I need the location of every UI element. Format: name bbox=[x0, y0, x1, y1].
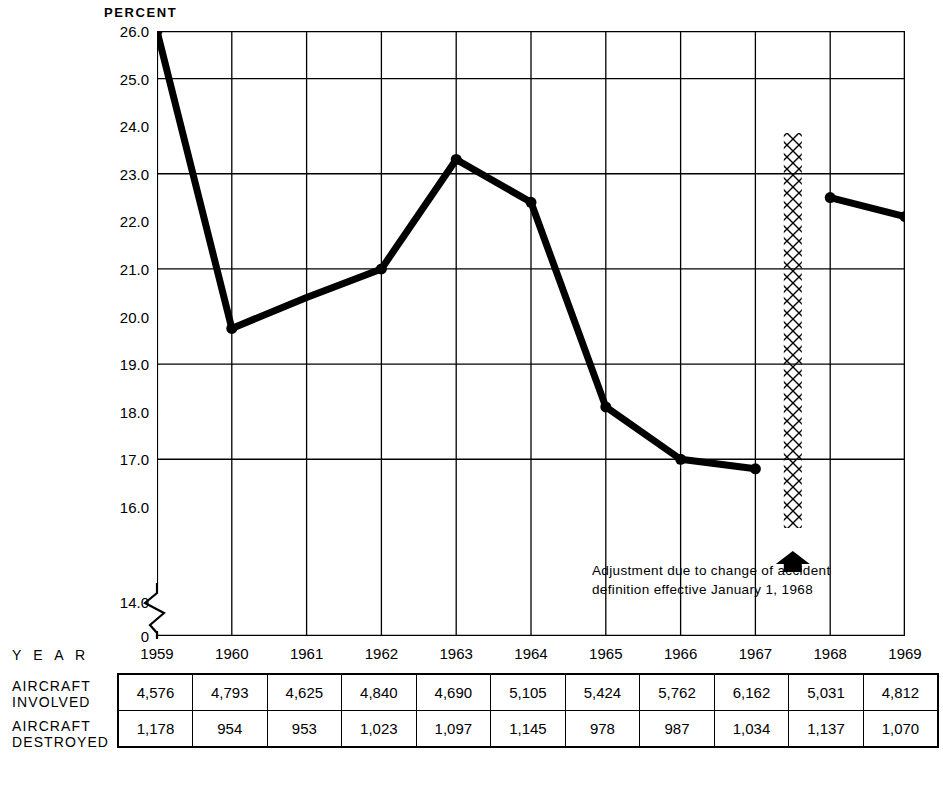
y-tick-label: 19.0 bbox=[87, 357, 149, 372]
x-tick-label: 1969 bbox=[870, 645, 940, 662]
annotation-line-2: definition effective January 1, 1968 bbox=[592, 580, 831, 599]
data-point-marker bbox=[451, 154, 462, 165]
x-tick-label: 1962 bbox=[346, 645, 416, 662]
x-tick-label: 1967 bbox=[720, 645, 790, 662]
table-cell: 1,023 bbox=[342, 711, 417, 748]
data-point-marker bbox=[526, 197, 537, 208]
table-cell: 4,625 bbox=[267, 674, 342, 711]
x-tick-label: 1963 bbox=[421, 645, 491, 662]
data-point-marker bbox=[376, 263, 387, 274]
adjustment-annotation: Adjustment due to change of accident def… bbox=[592, 561, 831, 599]
table-cell: 1,178 bbox=[118, 711, 193, 748]
row-label-aircraft-destroyed: AIRCRAFT DESTROYED bbox=[12, 718, 109, 750]
table-cell: 978 bbox=[565, 711, 640, 748]
y-axis-tick-labels: 26.025.024.023.022.021.020.019.018.017.0… bbox=[83, 31, 149, 636]
y-tick-label: 17.0 bbox=[87, 452, 149, 467]
y-tick-label: 26.0 bbox=[87, 24, 149, 39]
x-axis-tick-labels: 1959196019611962196319641965196619671968… bbox=[0, 645, 943, 669]
table-cell: 4,812 bbox=[863, 674, 938, 711]
y-tick-label: 20.0 bbox=[87, 310, 149, 325]
table-cell: 6,162 bbox=[714, 674, 789, 711]
data-point-marker bbox=[600, 401, 611, 412]
table-cell: 4,840 bbox=[342, 674, 417, 711]
plot-area bbox=[157, 31, 905, 636]
table-cell: 4,576 bbox=[118, 674, 193, 711]
y-tick-label: 16.0 bbox=[87, 500, 149, 515]
y-tick-label: 23.0 bbox=[87, 167, 149, 182]
data-point-marker bbox=[675, 454, 686, 465]
plot-svg bbox=[157, 31, 905, 636]
annotation-line-1: Adjustment due to change of accident bbox=[592, 561, 831, 580]
table-cell: 4,793 bbox=[193, 674, 268, 711]
x-tick-label: 1968 bbox=[795, 645, 865, 662]
table-cell: 1,097 bbox=[416, 711, 491, 748]
y-tick-label: 21.0 bbox=[87, 262, 149, 277]
x-tick-label: 1966 bbox=[646, 645, 716, 662]
series-line bbox=[830, 198, 905, 217]
table-cell: 1,070 bbox=[863, 711, 938, 748]
data-point-marker bbox=[825, 192, 836, 203]
table-cell: 1,145 bbox=[491, 711, 566, 748]
table-cell: 953 bbox=[267, 711, 342, 748]
x-tick-label: 1961 bbox=[272, 645, 342, 662]
row-label-year: Y E A R bbox=[12, 647, 89, 663]
y-axis-title: PERCENT bbox=[104, 5, 177, 20]
table-row: 4,5764,7934,6254,8404,6905,1055,4245,762… bbox=[118, 674, 938, 711]
table-row: 1,1789549531,0231,0971,1459789871,0341,1… bbox=[118, 711, 938, 748]
data-point-marker bbox=[750, 463, 761, 474]
table-cell: 987 bbox=[640, 711, 715, 748]
table-cell: 4,690 bbox=[416, 674, 491, 711]
y-tick-label: 22.0 bbox=[87, 214, 149, 229]
y-tick-label: 18.0 bbox=[87, 405, 149, 420]
x-tick-label: 1965 bbox=[571, 645, 641, 662]
y-axis-break-icon bbox=[140, 583, 180, 639]
table-cell: 1,137 bbox=[789, 711, 864, 748]
data-table: 4,5764,7934,6254,8404,6905,1055,4245,762… bbox=[117, 673, 939, 748]
table-cell: 1,034 bbox=[714, 711, 789, 748]
row-label-aircraft-involved: AIRCRAFT INVOLVED bbox=[12, 678, 91, 710]
chart-page: PERCENT 26.025.024.023.022.021.020.019.0… bbox=[0, 0, 943, 789]
table-cell: 5,031 bbox=[789, 674, 864, 711]
table-cell: 5,424 bbox=[565, 674, 640, 711]
adjustment-band bbox=[776, 133, 810, 572]
x-tick-label: 1959 bbox=[122, 645, 192, 662]
table-cell: 954 bbox=[193, 711, 268, 748]
y-tick-label: 24.0 bbox=[87, 119, 149, 134]
table-cell: 5,762 bbox=[640, 674, 715, 711]
hatched-band bbox=[784, 133, 802, 528]
data-point-marker bbox=[226, 323, 237, 334]
x-tick-label: 1960 bbox=[197, 645, 267, 662]
x-tick-label: 1964 bbox=[496, 645, 566, 662]
table-cell: 5,105 bbox=[491, 674, 566, 711]
y-tick-label: 25.0 bbox=[87, 72, 149, 87]
